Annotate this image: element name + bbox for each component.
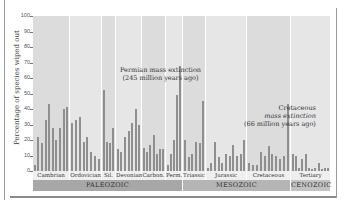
cretaceous-annotation: Cretaceous mass extinction (66 million y… (244, 104, 316, 128)
permian-annotation: Permian mass extinction (245 million yea… (120, 66, 201, 82)
extinction-bar (229, 156, 231, 172)
extinction-bar (156, 154, 158, 171)
extinction-bar (292, 154, 294, 171)
extinction-bar (128, 131, 130, 171)
extinction-bar (248, 163, 250, 171)
extinction-bar (66, 107, 68, 171)
figure-frame-right (336, 8, 337, 198)
era-label: MESOZOIC (183, 180, 290, 191)
extinction-bar (120, 152, 122, 171)
extinction-bar (176, 95, 178, 171)
extinction-bar (143, 148, 145, 171)
extinction-bar (109, 143, 111, 171)
y-tick-label: 0 (14, 167, 30, 173)
era-labels: PALEOZOICMESOZOICCENOZOIC (33, 180, 330, 191)
extinction-bar (195, 142, 197, 171)
extinction-bar (279, 159, 281, 171)
extinction-bar (90, 152, 92, 171)
extinction-bar (55, 140, 57, 171)
figure-frame-left (4, 0, 5, 200)
extinction-bar (106, 142, 108, 171)
extinction-bar (131, 123, 133, 171)
extinction-bar (146, 152, 148, 171)
extinction-bar (318, 163, 320, 171)
extinction-bar (271, 154, 273, 171)
y-tick-label: 30 (14, 121, 30, 127)
y-tick-label: 70 (14, 59, 30, 65)
extinction-bar (170, 154, 172, 171)
period-label: Devonian (116, 171, 141, 180)
period-band (291, 16, 330, 171)
extinction-bar (202, 101, 204, 171)
extinction-bar (210, 163, 212, 171)
permian-annotation-date: (245 million years ago) (120, 74, 201, 82)
extinction-bar (221, 163, 223, 171)
extinction-bar (240, 154, 242, 171)
y-tick-label: 40 (14, 105, 30, 111)
extinction-bar (112, 128, 114, 171)
extinction-bar (260, 152, 262, 171)
cretaceous-annotation-date: (66 million years ago) (244, 120, 316, 128)
extinction-bar (45, 120, 47, 171)
extinction-bar (214, 142, 216, 171)
y-tick-label: 100 (14, 12, 30, 18)
y-tick-label: 60 (14, 74, 30, 80)
period-label: Ordovician (70, 171, 101, 180)
y-tick-label: 10 (14, 152, 30, 158)
period-band (206, 16, 246, 171)
extinction-bar (173, 140, 175, 171)
era-label: CENOZOIC (291, 180, 330, 191)
extinction-bar (124, 137, 126, 171)
extinction-bar (59, 128, 61, 171)
permian-annotation-title: Permian mass extinction (120, 66, 201, 74)
extinction-bar (63, 109, 65, 171)
extinction-bar (191, 154, 193, 171)
extinction-bar (188, 157, 190, 171)
extinction-bar (268, 146, 270, 171)
extinction-bar (86, 137, 88, 171)
extinction-bar (48, 104, 50, 171)
extinction-bar (236, 156, 238, 172)
period-label: Triassic (183, 171, 205, 180)
period-label: Perm. (166, 171, 182, 180)
extinction-bar (184, 140, 186, 171)
extinction-bar (98, 159, 100, 171)
cretaceous-annotation-title: Cretaceous (244, 104, 316, 112)
extinction-bar (264, 156, 266, 172)
plot-area (33, 16, 330, 171)
extinction-bar (232, 145, 234, 171)
extinction-bar (52, 128, 54, 171)
extinction-bar (295, 156, 297, 172)
cretaceous-annotation-subtitle: mass extinction (244, 112, 316, 120)
extinction-bar (103, 90, 105, 171)
extinction-bar (159, 149, 161, 171)
era-label: PALEOZOIC (33, 180, 182, 191)
extinction-bar (71, 123, 73, 171)
y-tick-label: 50 (14, 90, 30, 96)
extinction-bar (283, 156, 285, 172)
period-label: Tertiary (291, 171, 330, 180)
extinction-bar (83, 142, 85, 171)
extinction-bar (199, 143, 201, 171)
period-labels: CambrianOrdovicianSil.DevonianCarbon.Per… (33, 171, 330, 180)
period-label: Cretaceous (247, 171, 290, 180)
extinction-bar (41, 143, 43, 171)
extinction-bar (117, 149, 119, 171)
extinction-bar (305, 154, 307, 171)
extinction-bar (301, 159, 303, 171)
extinction-bar (243, 140, 245, 171)
period-label: Cambrian (33, 171, 69, 180)
extinction-bar (75, 120, 77, 171)
extinction-bar (37, 137, 39, 171)
period-label: Carbon. (142, 171, 165, 180)
figure-frame-bottom (10, 196, 336, 198)
extinction-bar (153, 135, 155, 171)
extinction-bar (218, 157, 220, 171)
y-tick-label: 20 (14, 136, 30, 142)
extinction-bar (94, 156, 96, 172)
extinction-bar (135, 109, 137, 171)
y-tick-label: 90 (14, 28, 30, 34)
y-tick-label: 80 (14, 43, 30, 49)
period-label: Jurassic (206, 171, 246, 180)
extinction-bar (138, 125, 140, 172)
